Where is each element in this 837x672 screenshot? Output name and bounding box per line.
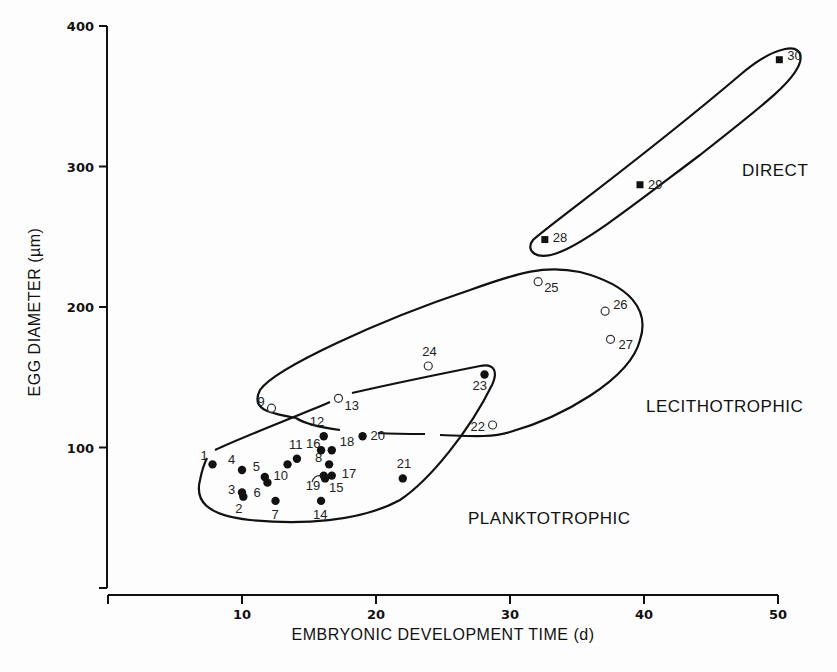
data-point-7 bbox=[271, 497, 279, 505]
data-point-label: 15 bbox=[329, 480, 343, 495]
data-point-label: 26 bbox=[613, 297, 627, 312]
data-point-29 bbox=[636, 181, 643, 188]
data-point-label: 6 bbox=[253, 485, 260, 500]
data-point-label: 23 bbox=[473, 378, 487, 393]
data-point-13 bbox=[334, 394, 342, 402]
lecithotrophic-region-outline bbox=[257, 269, 642, 436]
x-axis-title: EMBRYONIC DEVELOPMENT TIME (d) bbox=[291, 626, 594, 643]
data-point-label: 30 bbox=[787, 48, 801, 63]
data-point-21 bbox=[399, 474, 407, 482]
data-point-11 bbox=[293, 455, 301, 463]
data-point-label: 24 bbox=[422, 344, 436, 359]
x-tick-label: 20 bbox=[367, 607, 385, 622]
data-point-8 bbox=[325, 460, 333, 468]
y-tick-label: 300 bbox=[67, 160, 94, 175]
y-axis-title: EGG DIAMETER (µm) bbox=[26, 228, 43, 397]
data-point-label: 7 bbox=[272, 507, 279, 522]
data-point-30 bbox=[776, 56, 783, 63]
data-point-10 bbox=[283, 460, 291, 468]
data-point-9 bbox=[267, 404, 275, 412]
data-point-4 bbox=[238, 466, 246, 474]
data-point-label: 12 bbox=[310, 414, 324, 429]
data-point-label: 11 bbox=[289, 437, 303, 452]
data-point-12 bbox=[320, 432, 328, 440]
data-point-label: 9 bbox=[257, 394, 264, 409]
x-tick-label: 40 bbox=[635, 607, 653, 622]
y-axis: 100200300400 bbox=[67, 19, 107, 588]
data-point-label: 29 bbox=[648, 177, 662, 192]
y-tick-label: 200 bbox=[67, 300, 94, 315]
data-point-label: 3 bbox=[228, 482, 235, 497]
data-point-label: 20 bbox=[371, 428, 385, 443]
data-point-1 bbox=[208, 460, 216, 468]
data-point-label: 4 bbox=[228, 452, 235, 467]
data-point-25 bbox=[534, 278, 542, 286]
data-point-6 bbox=[263, 478, 271, 486]
data-point-23 bbox=[480, 370, 488, 378]
data-point-26 bbox=[601, 307, 609, 315]
y-tick-label: 100 bbox=[67, 441, 94, 456]
y-tick-label: 400 bbox=[67, 19, 94, 34]
data-point-label: 2 bbox=[235, 501, 242, 516]
data-point-20 bbox=[358, 432, 366, 440]
x-axis-ticks: 1020304050 bbox=[233, 595, 787, 622]
data-point-18 bbox=[328, 446, 336, 454]
x-tick-label: 30 bbox=[501, 607, 519, 622]
data-point-27 bbox=[607, 335, 615, 343]
data-point-label: 18 bbox=[340, 434, 354, 449]
data-point-label: 28 bbox=[553, 230, 567, 245]
scatter-chart: 100200300400 1020304050 EMBRYONIC DEVELO… bbox=[0, 0, 837, 672]
data-point-label: 21 bbox=[397, 456, 411, 471]
data-point-label: 25 bbox=[544, 280, 558, 295]
direct-group-label: DIRECT bbox=[742, 161, 808, 180]
planktotrophic-group-label: PLANKTOTROPHIC bbox=[468, 509, 631, 528]
data-point-22 bbox=[489, 421, 497, 429]
x-axis: 1020304050 bbox=[108, 595, 787, 622]
data-point-28 bbox=[541, 236, 548, 243]
data-point-label: 17 bbox=[342, 466, 356, 481]
direct-region-outline bbox=[530, 48, 800, 255]
data-point-label: 13 bbox=[344, 398, 358, 413]
x-tick-label: 10 bbox=[233, 607, 251, 622]
data-point-label: 10 bbox=[274, 468, 288, 483]
data-point-17 bbox=[328, 471, 336, 479]
data-point-label: 1 bbox=[201, 448, 208, 463]
y-axis-ticks: 100200300400 bbox=[67, 19, 107, 588]
data-point-24 bbox=[424, 362, 432, 370]
data-point-label: 22 bbox=[471, 419, 485, 434]
data-point-label: 27 bbox=[619, 337, 633, 352]
data-point-14 bbox=[317, 497, 325, 505]
data-point-3 bbox=[238, 488, 246, 496]
data-points: 1234567810111214151617181920212391322242… bbox=[201, 48, 802, 522]
data-point-label: 16 bbox=[306, 436, 320, 451]
data-point-label: 5 bbox=[253, 459, 260, 474]
data-point-label: 14 bbox=[313, 507, 327, 522]
x-tick-label: 50 bbox=[769, 607, 787, 622]
lecithotrophic-group-label: LECITHOTROPHIC bbox=[646, 397, 803, 416]
